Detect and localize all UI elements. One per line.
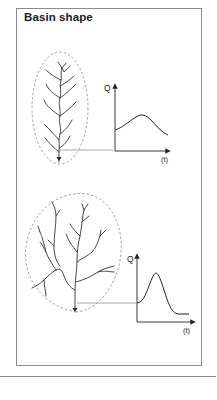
outlet-arrow-elongated [57, 157, 62, 161]
stream-network-round [32, 202, 114, 310]
hydrograph-1: Q (t) [104, 83, 169, 164]
y-axis-label-1: Q [104, 83, 111, 93]
stream-network-elongated [44, 62, 76, 162]
panel-round-basin: Q (t) [25, 193, 193, 335]
x-axis-label-2: (t) [183, 326, 191, 335]
outlet-arrow-round [73, 308, 78, 312]
panel-elongated-basin: Q (t) [32, 52, 169, 164]
basin-shape-diagram: Q (t) [0, 0, 217, 400]
x-axis-label-1: (t) [161, 155, 169, 164]
hydrograph-2: Q (t) [127, 254, 193, 335]
y-axis-label-2: Q [127, 254, 134, 264]
hydrograph-curve-sharp [137, 273, 189, 314]
hydrograph-curve-broad [115, 115, 168, 135]
basin-outline-round [25, 193, 121, 312]
